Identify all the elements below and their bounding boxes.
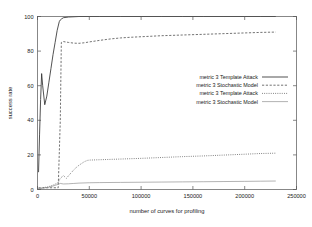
y-tick-label: 80 xyxy=(27,48,33,54)
legend-label-1: metric 3 Stochastic Model xyxy=(196,82,258,88)
line-chart: 0500001000001500002000002500000204060801… xyxy=(0,0,312,227)
x-tick-label: 50000 xyxy=(82,193,98,199)
y-tick-label: 0 xyxy=(30,187,33,193)
y-tick-label: 100 xyxy=(24,14,33,20)
y-axis-title: success rate xyxy=(7,87,13,120)
x-axis-title: number of curves for profiling xyxy=(129,208,204,214)
chart-container: 0500001000001500002000002500000204060801… xyxy=(0,0,312,227)
chart-background xyxy=(0,0,312,227)
x-tick-label: 250000 xyxy=(287,193,306,199)
x-tick-label: 0 xyxy=(36,193,39,199)
legend-label-0: metric 3 Template Attack xyxy=(199,74,258,80)
x-tick-label: 100000 xyxy=(132,193,151,199)
legend-label-2: metric 3 Template Attack xyxy=(199,90,258,96)
x-tick-label: 150000 xyxy=(184,193,203,199)
y-tick-label: 60 xyxy=(27,83,33,89)
y-tick-label: 20 xyxy=(27,152,33,158)
legend-label-3: metric 3 Stochastic Model xyxy=(196,99,258,105)
y-tick-label: 40 xyxy=(27,117,33,123)
x-tick-label: 200000 xyxy=(235,193,254,199)
